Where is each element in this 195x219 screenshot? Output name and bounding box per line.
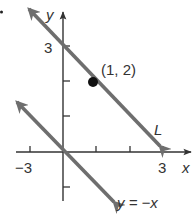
x-ticks [30,146,163,152]
stray-dot [0,11,3,14]
y-tick-label-3: 3 [44,39,52,56]
line-L-label: L [154,121,162,138]
point-label: (1, 2) [101,61,136,78]
x-axis-label: x [181,159,190,176]
line-neg-label: y = −x [116,194,158,211]
y-axis-label: y [45,6,55,23]
x-tick-label-neg3: −3 [15,159,32,176]
x-tick-label-3: 3 [158,159,166,176]
coordinate-plot: y x 3 −3 3 (1, 2) L y = −x [0,0,195,219]
point-1-2 [88,77,98,87]
y-ticks [63,46,70,187]
